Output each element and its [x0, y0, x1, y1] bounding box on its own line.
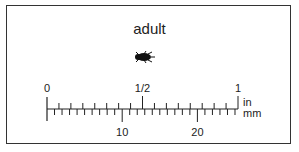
- mm-label: 10: [116, 126, 128, 138]
- inch-label: 0: [44, 82, 50, 94]
- inch-label: 1: [235, 82, 241, 94]
- scale-ruler: 01/211020inmm: [0, 0, 299, 152]
- mm-label: 20: [191, 126, 203, 138]
- inch-label: 1/2: [135, 82, 150, 94]
- beetle-icon: [135, 51, 155, 63]
- mm-unit-label: mm: [243, 107, 261, 119]
